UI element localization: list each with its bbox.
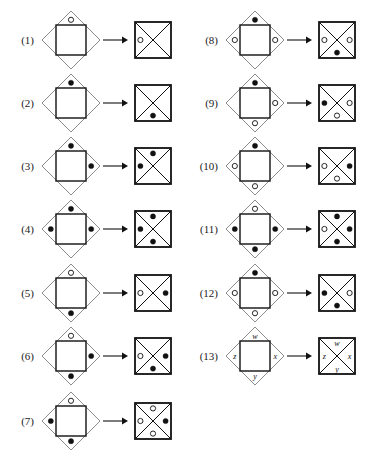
transformation-row: (5) — [0, 261, 184, 325]
result-crossed-square — [130, 17, 176, 63]
source-diamond-square — [40, 9, 102, 71]
source-diamond-square — [224, 72, 286, 134]
figure-sheet: (1)(2)(3)(4)(5)(6)(7) (8)(9)(10)(11)(12)… — [0, 0, 368, 464]
item-label: (13) — [184, 351, 224, 362]
source-diamond-square — [224, 262, 286, 324]
result-crossed-square — [130, 143, 176, 189]
maps-to-arrow-icon — [286, 284, 312, 302]
maps-to-arrow-icon — [102, 157, 128, 175]
maps-to-arrow-icon — [286, 94, 312, 112]
result-crossed-square — [314, 206, 360, 252]
transformation-row: (10) — [184, 134, 368, 198]
source-diamond-square — [224, 135, 286, 197]
svg-text:x: x — [347, 352, 352, 361]
source-diamond-square — [40, 325, 102, 387]
source-diamond-square — [40, 135, 102, 197]
transformation-row: (7) — [0, 389, 184, 453]
transformation-row: (11) — [184, 197, 368, 261]
result-crossed-square: wxyz — [314, 333, 360, 379]
maps-to-arrow-icon — [102, 31, 128, 49]
source-diamond-square — [40, 390, 102, 452]
maps-to-arrow-icon — [102, 94, 128, 112]
transformation-row: (3) — [0, 134, 184, 198]
maps-to-arrow-icon — [286, 347, 312, 365]
maps-to-arrow-icon — [102, 412, 128, 430]
svg-text:w: w — [334, 339, 340, 348]
svg-text:z: z — [232, 352, 237, 361]
svg-text:w: w — [252, 332, 258, 341]
result-crossed-square — [314, 270, 360, 316]
transformation-row: (13)wxyzwxyz — [184, 324, 368, 388]
maps-to-arrow-icon — [286, 157, 312, 175]
result-crossed-square — [314, 80, 360, 126]
result-crossed-square — [130, 270, 176, 316]
transformation-row: (4) — [0, 197, 184, 261]
source-diamond-square — [224, 198, 286, 260]
maps-to-arrow-icon — [102, 347, 128, 365]
item-label: (3) — [0, 161, 40, 172]
item-label: (11) — [184, 224, 224, 235]
item-label: (10) — [184, 161, 224, 172]
result-crossed-square — [130, 333, 176, 379]
transformation-row: (9) — [184, 71, 368, 135]
transformation-row: (6) — [0, 324, 184, 388]
item-label: (9) — [184, 98, 224, 109]
source-diamond-square — [224, 9, 286, 71]
maps-to-arrow-icon — [102, 284, 128, 302]
transformation-row: (1) — [0, 8, 184, 72]
svg-text:x: x — [272, 352, 277, 361]
maps-to-arrow-icon — [286, 220, 312, 238]
item-label: (5) — [0, 288, 40, 299]
svg-text:y: y — [252, 372, 257, 381]
result-crossed-square — [130, 80, 176, 126]
maps-to-arrow-icon — [286, 31, 312, 49]
transformation-row: (12) — [184, 261, 368, 325]
item-label: (1) — [0, 35, 40, 46]
maps-to-arrow-icon — [102, 220, 128, 238]
result-crossed-square — [130, 398, 176, 444]
item-label: (8) — [184, 35, 224, 46]
svg-text:y: y — [334, 365, 339, 374]
item-label: (4) — [0, 224, 40, 235]
transformation-row: (8) — [184, 8, 368, 72]
column-left: (1)(2)(3)(4)(5)(6)(7) — [0, 0, 184, 464]
result-crossed-square — [314, 143, 360, 189]
source-diamond-square — [40, 198, 102, 260]
result-crossed-square — [314, 17, 360, 63]
item-label: (7) — [0, 416, 40, 427]
result-crossed-square — [130, 206, 176, 252]
source-diamond-square — [40, 262, 102, 324]
item-label: (12) — [184, 288, 224, 299]
item-label: (6) — [0, 351, 40, 362]
source-diamond-square — [40, 72, 102, 134]
transformation-row: (2) — [0, 71, 184, 135]
column-right: (8)(9)(10)(11)(12)(13)wxyzwxyz — [184, 0, 368, 464]
source-diamond-square: wxyz — [224, 325, 286, 387]
item-label: (2) — [0, 98, 40, 109]
